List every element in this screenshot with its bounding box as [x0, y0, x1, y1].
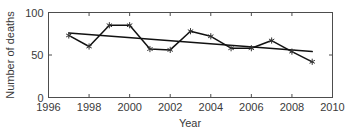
chart-figure: 19961998200020022004200620082010 050100 … [0, 0, 355, 131]
y-tick-label: 100 [25, 7, 43, 19]
x-tick-label: 2002 [158, 101, 182, 113]
y-axis-title: Number of deaths [4, 11, 16, 99]
y-tick-label: 0 [37, 92, 43, 104]
y-axis-tick-labels: 050100 [25, 7, 43, 104]
x-tick-label: 2008 [280, 101, 304, 113]
x-tick-label: 2010 [320, 101, 344, 113]
y-tick-label: 50 [31, 49, 43, 61]
line-chart-canvas: 19961998200020022004200620082010 050100 … [0, 0, 355, 131]
plot-area-border [49, 13, 333, 98]
data-point-marker [310, 59, 315, 65]
x-tick-label: 1998 [77, 101, 101, 113]
x-axis-tick-labels: 19961998200020022004200620082010 [36, 101, 344, 113]
x-axis-ticks [49, 13, 333, 98]
x-tick-label: 2006 [239, 101, 263, 113]
x-tick-label: 2000 [117, 101, 141, 113]
x-axis-title: Year [179, 117, 202, 129]
x-tick-label: 2004 [199, 101, 223, 113]
y-axis-ticks [49, 13, 333, 98]
